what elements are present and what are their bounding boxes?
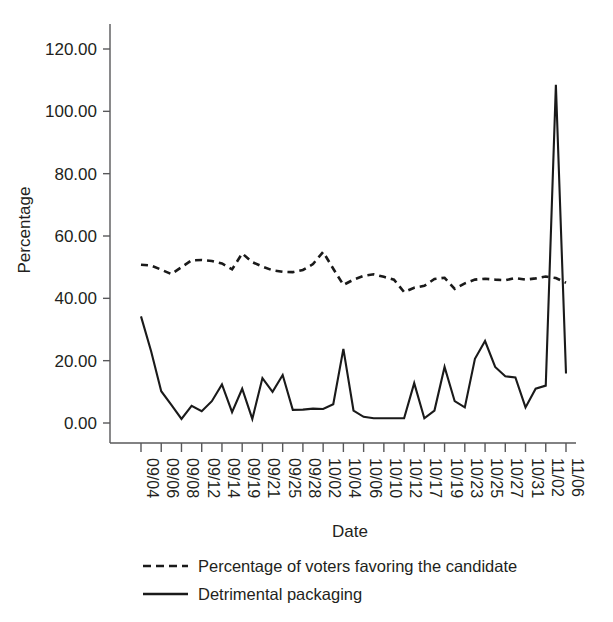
y-tick-label: 120.00	[45, 40, 97, 59]
y-tick-label: 20.00	[54, 352, 97, 371]
x-tick-group: 09/0409/0609/0809/1209/1409/1909/2109/25…	[141, 443, 586, 498]
legend-item-label-0: Percentage of voters favoring the candid…	[198, 557, 517, 575]
legend-item-label-1: Detrimental packaging	[198, 585, 362, 603]
x-tick-label: 10/12	[407, 458, 424, 498]
x-tick-label: 10/02	[326, 458, 343, 498]
y-tick-label: 40.00	[54, 289, 97, 308]
x-tick-label: 09/04	[144, 458, 161, 498]
x-tick-label: 09/14	[225, 458, 242, 498]
chart-page: 0.0020.0040.0060.0080.00100.00120.00 09/…	[0, 0, 613, 622]
x-tick-label: 09/08	[184, 458, 201, 498]
x-tick-label: 10/06	[367, 458, 384, 498]
y-tick-label: 80.00	[54, 165, 97, 184]
x-tick-label: 10/10	[387, 458, 404, 498]
x-axis-title: Date	[332, 522, 368, 541]
x-tick-label: 10/04	[346, 458, 363, 498]
y-axis-title: Percentage	[15, 187, 34, 274]
series-line-0	[141, 252, 566, 292]
series-layer	[141, 85, 566, 419]
y-tick-group: 0.0020.0040.0060.0080.00100.00120.00	[45, 40, 110, 433]
y-tick-label: 0.00	[64, 414, 97, 433]
x-tick-label: 09/28	[306, 458, 323, 498]
x-tick-label: 10/27	[508, 458, 525, 498]
series-line-1	[141, 85, 566, 419]
x-tick-label: 09/12	[205, 458, 222, 498]
y-tick-label: 60.00	[54, 227, 97, 246]
legend: Percentage of voters favoring the candid…	[143, 557, 517, 603]
x-tick-label: 10/25	[488, 458, 505, 498]
x-tick-label: 09/21	[265, 458, 282, 498]
x-tick-label: 11/02	[549, 458, 566, 497]
x-tick-label: 09/06	[164, 458, 181, 498]
x-tick-label: 10/31	[529, 458, 546, 498]
x-tick-label: 10/19	[448, 458, 465, 498]
x-tick-label: 11/06	[569, 458, 586, 497]
x-tick-label: 09/19	[245, 458, 262, 498]
line-chart: 0.0020.0040.0060.0080.00100.00120.00 09/…	[0, 0, 613, 622]
x-tick-label: 10/17	[427, 458, 444, 498]
x-tick-label: 10/23	[468, 458, 485, 498]
x-tick-label: 09/25	[286, 458, 303, 498]
y-tick-label: 100.00	[45, 102, 97, 121]
